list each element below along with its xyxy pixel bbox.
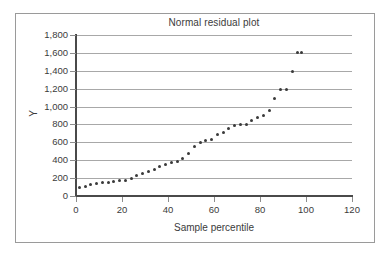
y-axis-tick [70,142,76,143]
data-point [101,181,104,184]
x-axis-tick-label: 20 [122,204,133,215]
data-point [158,165,161,168]
x-axis-tick-label: 80 [260,204,271,215]
data-point [273,97,276,100]
gridline-y [76,107,352,108]
x-axis-tick [260,197,261,202]
y-axis-tick [70,53,76,54]
gridline-y [76,89,352,90]
data-point [239,123,242,126]
data-point [199,141,202,144]
data-point [135,174,138,177]
plot-area [76,35,352,196]
x-axis-tick [214,197,215,202]
gridline-y [76,124,352,125]
data-point [193,145,196,148]
data-point [233,124,236,127]
y-axis-tick [70,107,76,108]
x-axis-tick [122,197,123,202]
data-point [300,51,303,54]
x-axis-tick [168,197,169,202]
data-point [95,182,98,185]
gridline-y [76,71,352,72]
data-point [285,88,288,91]
data-point [262,114,265,117]
gridline-y [76,142,352,143]
x-axis-tick [76,197,77,202]
data-point [89,183,92,186]
data-point [84,185,87,188]
data-point [176,160,179,163]
data-point [227,127,230,130]
data-point [124,179,127,182]
chart-title: Normal residual plot [76,17,352,28]
data-point [245,123,248,126]
gridline-y [76,35,352,36]
y-axis-line [75,34,77,197]
data-point [164,163,167,166]
data-point [279,88,282,91]
data-point [268,109,271,112]
x-axis-tick-label: 60 [214,204,225,215]
x-axis-tick [352,197,353,202]
x-axis-tick-label: 100 [306,204,322,215]
data-point [250,119,253,122]
gridline-y [76,53,352,54]
data-point [147,170,150,173]
x-axis-tick-label: 120 [352,204,368,215]
data-point [256,116,259,119]
figure-container: Normal residual plot Y Sample percentile… [0,0,390,253]
data-point [210,138,213,141]
data-point [222,131,225,134]
y-axis-tick [70,124,76,125]
y-axis-tick [70,178,76,179]
x-axis-tick [306,197,307,202]
data-point [130,177,133,180]
x-axis-tick-label: 40 [168,204,179,215]
x-axis-tick-label: 0 [76,204,81,215]
data-point [141,172,144,175]
data-point [291,70,294,73]
y-axis-tick [70,35,76,36]
x-axis-title: Sample percentile [76,222,352,233]
y-axis-tick [70,89,76,90]
data-point [187,152,190,155]
gridline-y [76,160,352,161]
data-point [112,180,115,183]
y-axis-tick [70,71,76,72]
data-point [153,168,156,171]
data-point [107,181,110,184]
data-point [170,161,173,164]
y-axis-tick [70,160,76,161]
y-axis-title: Y [28,103,39,125]
data-point [78,186,81,189]
data-point [118,179,121,182]
data-point [216,133,219,136]
